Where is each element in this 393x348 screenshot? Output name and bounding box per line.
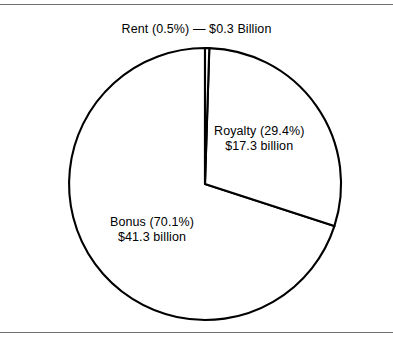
royalty-label-line-1: Royalty (29.4%) — [214, 124, 304, 139]
bonus-label-line-2: $41.3 billion — [110, 230, 194, 245]
bottom-divider-rule — [0, 332, 393, 333]
royalty-label-line-2: $17.3 billion — [214, 139, 304, 154]
bonus-label-line-1: Bonus (70.1%) — [110, 215, 194, 230]
rent-slice-caption: Rent (0.5%) — $0.3 Billion — [0, 22, 393, 37]
figure-page: Rent (0.5%) — $0.3 Billion Royalty (29.4… — [0, 0, 393, 348]
royalty-slice-label: Royalty (29.4%) $17.3 billion — [214, 124, 304, 154]
pie-chart-figure: Rent (0.5%) — $0.3 Billion Royalty (29.4… — [0, 5, 393, 332]
bonus-slice-label: Bonus (70.1%) $41.3 billion — [110, 215, 194, 245]
pie-chart-svg — [0, 5, 393, 332]
